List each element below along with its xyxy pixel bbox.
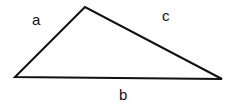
side-label-b: b	[119, 86, 127, 103]
side-label-c: c	[162, 7, 170, 24]
triangle-diagram: a c b	[0, 0, 234, 104]
triangle-shape	[15, 7, 222, 79]
side-label-a: a	[32, 11, 41, 28]
